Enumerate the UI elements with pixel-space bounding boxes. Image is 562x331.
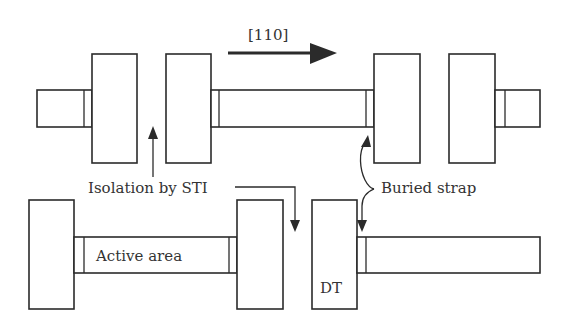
bottom-active-strip-right xyxy=(357,237,540,273)
top-trench-2 xyxy=(166,54,211,163)
top-trench-1 xyxy=(92,54,137,163)
top-stub-right xyxy=(495,90,540,127)
bottom-row: Active area DT xyxy=(29,200,540,309)
bottom-trench-right xyxy=(237,200,283,309)
active-area-label: Active area xyxy=(95,247,182,265)
bottom-trench-left xyxy=(29,200,74,309)
top-active-strip xyxy=(211,90,374,127)
strap-arrow-up-icon xyxy=(361,135,371,147)
strap-arrow-down-icon xyxy=(357,220,367,232)
strap-brace-upper xyxy=(360,143,374,189)
isolation-arrow-down-icon xyxy=(290,220,300,232)
dt-label: DT xyxy=(320,279,342,297)
buried-strap-label: Buried strap xyxy=(381,179,476,197)
top-trench-4 xyxy=(449,54,495,163)
isolation-label: Isolation by STI xyxy=(88,179,208,197)
direction-arrow-110: [110] xyxy=(228,26,337,64)
arrow-head-icon xyxy=(310,43,337,64)
direction-label: [110] xyxy=(248,26,288,44)
top-row xyxy=(37,54,540,163)
isolation-arrow-up-icon xyxy=(148,126,158,139)
dram-layout-diagram: [110] Active area DT Isolation b xyxy=(0,0,562,331)
strap-brace-lower xyxy=(362,189,374,222)
top-trench-3 xyxy=(374,54,420,163)
